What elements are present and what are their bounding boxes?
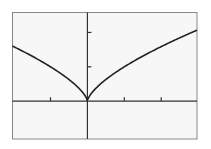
plot-frame [13,13,198,140]
graph-plot [0,0,211,149]
